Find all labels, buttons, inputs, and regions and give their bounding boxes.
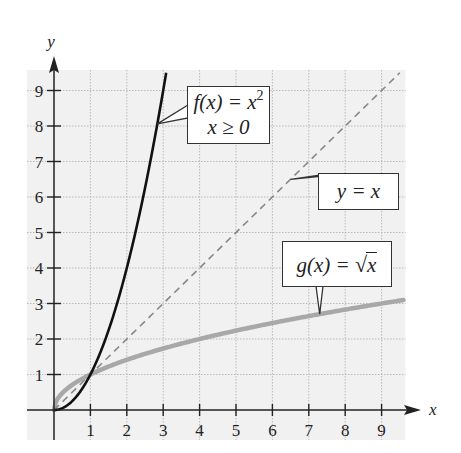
callout-f-line2: x ≥ 0 <box>188 115 269 140</box>
callout-g-sqrt: g(x) = √x <box>282 241 392 287</box>
y-tick-label: 3 <box>35 295 44 314</box>
y-tick-label: 6 <box>35 188 44 207</box>
callout-f-square: f(x) = x2 x ≥ 0 <box>187 86 270 144</box>
x-tick-label: 5 <box>232 421 241 440</box>
y-axis-label: y <box>45 32 55 51</box>
y-tick-label: 8 <box>35 117 44 136</box>
x-tick-label: 6 <box>268 421 277 440</box>
x-tick-label: 8 <box>341 421 350 440</box>
x-axis-label: x <box>428 400 437 419</box>
callout-identity: y = x <box>318 173 399 210</box>
x-tick-label: 3 <box>159 421 168 440</box>
y-tick-label: 2 <box>35 330 44 349</box>
x-tick-label: 1 <box>86 421 95 440</box>
x-tick-label: 9 <box>377 421 386 440</box>
y-tick-label: 4 <box>35 259 44 278</box>
y-tick-label: 9 <box>35 82 44 101</box>
y-tick-label: 1 <box>35 366 44 385</box>
sqrt-symbol: √x <box>355 252 377 278</box>
callout-identity-text: y = x <box>337 179 380 203</box>
y-tick-label: 7 <box>35 153 44 172</box>
callout-g-prefix: g(x) = <box>297 253 355 277</box>
x-tick-label: 4 <box>195 421 204 440</box>
function-graph: 123456789123456789xy <box>0 0 461 453</box>
y-tick-label: 5 <box>35 224 44 243</box>
x-tick-label: 2 <box>123 421 132 440</box>
x-tick-label: 7 <box>305 421 314 440</box>
callout-f-line1: f(x) = x2 <box>188 90 269 115</box>
